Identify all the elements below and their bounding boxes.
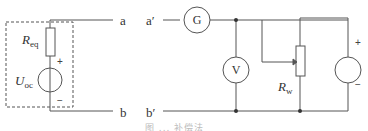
terminal-b-prime: b′ (146, 106, 155, 119)
uoc-label: Uoc (15, 74, 33, 90)
rw-label: Rw (278, 80, 292, 96)
terminal-a: a (120, 14, 126, 27)
uoc-plus: + (57, 57, 63, 67)
uoc-minus: − (57, 96, 63, 106)
figure-caption: 图 ... 补偿法 (145, 121, 204, 131)
terminal-a-prime: a′ (146, 14, 155, 27)
galvanometer-label: G (190, 13, 204, 28)
req-label: Req (22, 33, 38, 49)
source-plus: + (355, 38, 361, 48)
source-minus: − (355, 80, 361, 90)
circuit-diagram (0, 0, 368, 131)
terminal-b: b (120, 106, 127, 119)
req-resistor (46, 28, 55, 56)
voltmeter-label: V (229, 63, 243, 78)
rheostat (296, 46, 305, 76)
